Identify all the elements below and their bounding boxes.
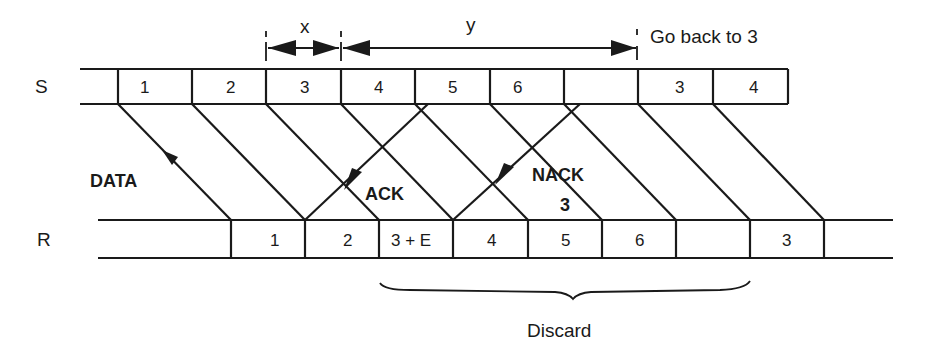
ack-label: ACK — [365, 184, 404, 204]
receiver-frame: 4 — [487, 231, 496, 250]
receiver-frames: 1 2 3 + E 4 5 6 3 — [270, 231, 791, 250]
sender-frame: 3 — [675, 78, 684, 97]
y-interval-label: y — [466, 14, 476, 35]
sender-frames: 1 2 3 4 5 6 3 4 — [140, 78, 758, 97]
receiver-frame: 5 — [561, 231, 570, 250]
receiver-frame: 2 — [343, 231, 352, 250]
discard-label: Discard — [527, 320, 591, 341]
receiver-frame: 6 — [635, 231, 644, 250]
arq-diagram: S R 1 2 3 4 5 6 3 4 — [0, 0, 936, 356]
nack-number-label: 3 — [560, 195, 570, 215]
nack-arrow-head-icon — [495, 163, 514, 185]
sender-frame: 4 — [374, 78, 383, 97]
sender-frame: 5 — [448, 78, 457, 97]
x-interval-label: x — [300, 16, 310, 37]
data-label: DATA — [90, 171, 137, 191]
nack-label: NACK — [532, 165, 584, 185]
y-interval-marker — [343, 29, 637, 60]
discard-brace — [380, 281, 750, 299]
go-back-annotation: Go back to 3 — [650, 26, 758, 47]
receiver-frame: 1 — [270, 231, 279, 250]
sender-frame: 3 — [300, 78, 309, 97]
receiver-frame: 3 — [782, 231, 791, 250]
sender-frame: 2 — [226, 78, 235, 97]
receiver-row-label: R — [37, 229, 51, 250]
sender-row-label: S — [35, 76, 48, 97]
sender-frame: 4 — [749, 78, 758, 97]
ack-arrow-head-icon — [344, 168, 362, 190]
sender-frame: 1 — [140, 78, 149, 97]
receiver-frame: 3 + E — [391, 231, 431, 250]
sender-frame: 6 — [513, 78, 522, 97]
